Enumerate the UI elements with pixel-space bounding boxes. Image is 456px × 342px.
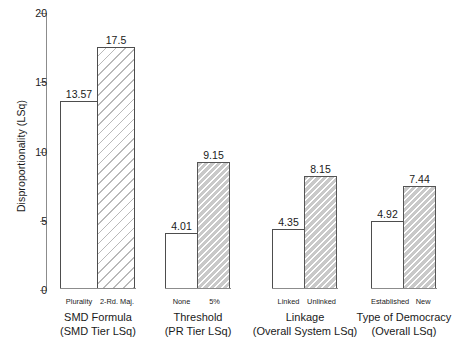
bar-plurality[interactable]: 13.57 [60,101,98,289]
bar-group-threshold: 4.019.15None5%Threshold(PR Tier LSq) [165,0,231,342]
group-baseline [371,288,437,289]
bar-2-rd-maj-[interactable]: 17.5 [97,47,135,289]
y-tick-label: 20 [7,8,47,19]
bars-container: 13.5717.5 [60,12,136,289]
bar-group-type-of-democracy: 4.927.44EstablishedNewType of Democracy(… [371,0,437,342]
group-baseline [60,288,136,289]
bar-value-label: 9.15 [203,150,223,161]
category-label: Plurality [60,297,98,306]
bars-container: 4.019.15 [165,12,231,289]
bar-5-[interactable]: 9.15 [197,162,230,289]
group-baseline [272,288,338,289]
bar-linked[interactable]: 4.35 [272,229,305,289]
bar-value-label: 4.35 [278,217,298,228]
bar-value-label: 17.5 [106,35,126,46]
y-tick-label: 10 [7,147,47,158]
bar-value-label: 4.01 [171,221,191,232]
category-label: Unlinked [305,297,338,306]
category-label: Established [371,297,409,306]
y-tick-label: 5 [7,216,47,227]
bars-container: 4.358.15 [272,12,338,289]
group-baseline [165,288,231,289]
category-label: 5% [198,297,231,306]
bar-established[interactable]: 4.92 [371,221,404,289]
bar-value-label: 13.57 [66,89,92,100]
category-label: None [165,297,198,306]
category-tick-labels: Plurality2-Rd. Maj. [60,297,136,306]
bar-value-label: 7.44 [409,174,429,185]
bar-group-linkage: 4.358.15LinkedUnlinkedLinkage(Overall Sy… [272,0,338,342]
group-title-main: Type of Democracy [304,311,456,325]
bars-container: 4.927.44 [371,12,437,289]
category-tick-labels: LinkedUnlinked [272,297,338,306]
bar-group-smd-formula: 13.5717.5Plurality2-Rd. Maj.SMD Formula(… [60,0,136,342]
y-tick-label: 15 [7,77,47,88]
y-tick-label: 0 [7,285,47,296]
bar-new[interactable]: 7.44 [403,186,436,289]
bar-unlinked[interactable]: 8.15 [304,176,337,289]
bar-value-label: 8.15 [310,164,330,175]
category-tick-labels: EstablishedNew [371,297,437,306]
group-title-sub: (Overall LSq) [304,325,456,339]
category-label: Linked [272,297,305,306]
category-tick-labels: None5% [165,297,231,306]
bar-none[interactable]: 4.01 [165,233,198,289]
category-label: New [409,297,437,306]
category-label: 2-Rd. Maj. [98,297,136,306]
bar-value-label: 4.92 [377,209,397,220]
group-title: Type of Democracy(Overall LSq) [304,311,456,338]
